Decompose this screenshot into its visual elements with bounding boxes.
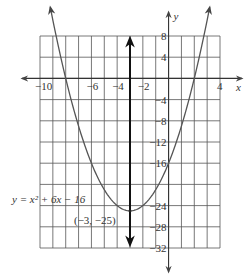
x-axis-label: x <box>235 81 241 93</box>
x-tick-label: −10 <box>35 80 53 92</box>
x-tick-label: −2 <box>138 80 150 92</box>
y-tick-label: 4 <box>161 51 167 63</box>
parabola-right-branch <box>130 7 210 211</box>
y-tick-label: −12 <box>149 136 166 148</box>
x-tick-label: −6 <box>86 80 98 92</box>
parabola-graph: −10−6−4−2484−4−8−12−16−24−28−32xyy = x² … <box>0 0 249 278</box>
y-axis-label: y <box>173 10 179 22</box>
equation-label: y = x² + 6x − 16 <box>11 193 86 205</box>
y-tick-label: −24 <box>149 200 167 212</box>
y-tick-label: −16 <box>149 157 167 169</box>
plot-svg: −10−6−4−2484−4−8−12−16−24−28−32xyy = x² … <box>0 0 249 278</box>
vertex-label: (−3, −25) <box>74 214 116 227</box>
y-tick-label: −4 <box>155 94 167 106</box>
y-tick-label: −8 <box>155 115 167 127</box>
y-tick-label: −32 <box>149 242 166 254</box>
y-tick-label: 8 <box>161 30 167 42</box>
parabola-left-branch <box>50 7 130 211</box>
vertex-point <box>129 210 132 213</box>
y-tick-label: −28 <box>149 221 167 233</box>
x-tick-label: −4 <box>112 80 124 92</box>
labels: −10−6−4−2484−4−8−12−16−24−28−32xyy = x² … <box>11 10 241 254</box>
x-tick-label: 4 <box>217 80 223 92</box>
